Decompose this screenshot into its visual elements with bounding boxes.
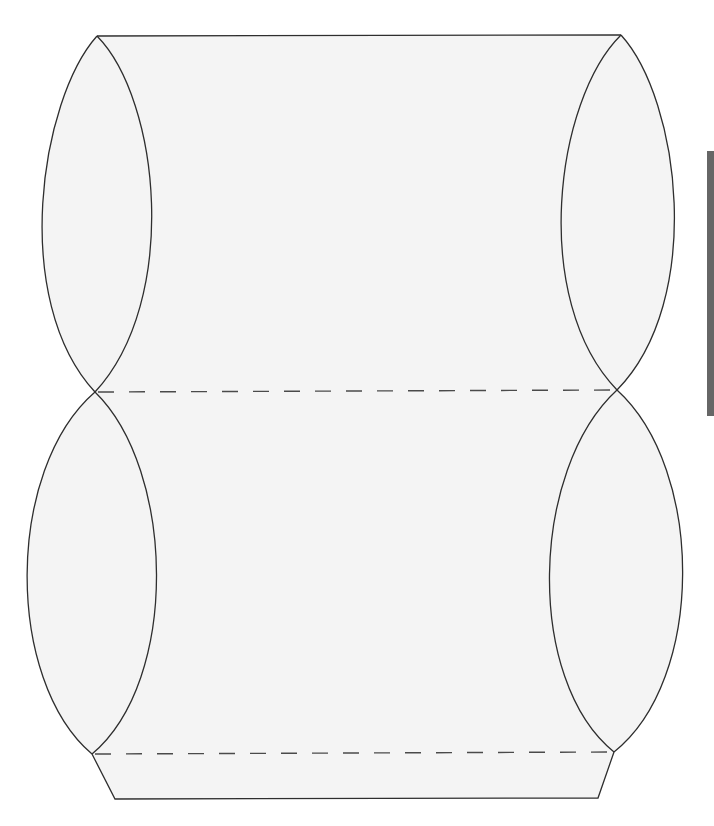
page-edge-bar — [707, 151, 714, 416]
pillow-box-template — [0, 0, 714, 826]
body-fill — [92, 35, 621, 799]
template-fill — [27, 35, 683, 799]
